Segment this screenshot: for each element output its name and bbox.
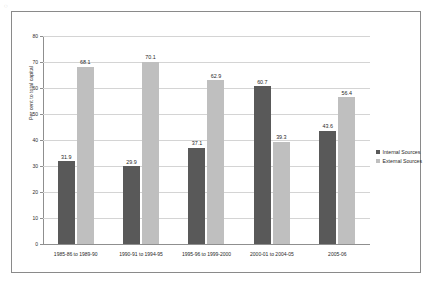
- bar-value-label: 31.9: [61, 154, 72, 160]
- y-axis-tick-label: 60: [32, 85, 38, 91]
- legend-swatch-icon-external: [376, 159, 380, 163]
- bar-value-label: 29.9: [126, 159, 137, 165]
- bar-external: 56.4: [338, 97, 355, 244]
- x-axis-category-label: 2000-01 to 2004-05: [250, 251, 294, 257]
- x-axis-category-label: 1990-91 to 1994-95: [119, 251, 163, 257]
- y-axis-tick-label: 40: [32, 137, 38, 143]
- bar-value-label: 56.4: [342, 90, 353, 96]
- y-axis-tick-label: 50: [32, 111, 38, 117]
- bar-external: 70.1: [142, 62, 159, 244]
- page-artifact-mark: ◌: [4, 1, 16, 11]
- y-axis-tick-label: 80: [32, 33, 38, 39]
- y-axis-tick-label: 70: [32, 59, 38, 65]
- x-axis-category-label: 1995-96 to 1999-2000: [182, 251, 231, 257]
- y-axis-tick-label: 0: [35, 241, 38, 247]
- bar-internal: 43.6: [319, 131, 336, 244]
- bar-group: 29.970.11990-91 to 1994-95: [108, 36, 173, 244]
- bar-group: 60.739.32000-01 to 2004-05: [239, 36, 304, 244]
- bar-value-label: 37.1: [192, 140, 203, 146]
- bar-value-label: 68.1: [80, 59, 91, 65]
- bar-group: 31.968.11985-86 to 1989-90: [43, 36, 108, 244]
- chart-figure-frame: Per cent to total capital 01020304050607…: [11, 11, 421, 273]
- bar-external: 39.3: [273, 142, 290, 244]
- y-axis-title: Per cent to total capital: [28, 38, 34, 148]
- bar-internal: 60.7: [254, 86, 271, 244]
- legend-item-internal-sources: Internal Sources: [376, 149, 422, 155]
- gridline: [43, 244, 370, 245]
- bar-group: 37.162.91995-96 to 1999-2000: [174, 36, 239, 244]
- bar-value-label: 62.9: [211, 73, 222, 79]
- x-axis-category-label: 1985-86 to 1989-90: [54, 251, 98, 257]
- y-axis-tick-label: 10: [32, 215, 38, 221]
- chart-legend: Internal Sources External Sources: [376, 149, 422, 167]
- y-axis-tick-label: 20: [32, 189, 38, 195]
- chart-axes: 0102030405060708031.968.11985-86 to 1989…: [43, 36, 370, 244]
- bar-value-label: 70.1: [145, 54, 156, 60]
- bar-external: 68.1: [77, 67, 94, 244]
- legend-item-external-sources: External Sources: [376, 158, 422, 164]
- bar-external: 62.9: [207, 80, 224, 244]
- legend-swatch-icon-internal: [376, 150, 380, 154]
- legend-label-external: External Sources: [383, 158, 423, 164]
- bar-value-label: 43.6: [323, 123, 334, 129]
- bar-internal: 29.9: [123, 166, 140, 244]
- bar-value-label: 39.3: [276, 134, 287, 140]
- bar-value-label: 60.7: [257, 79, 268, 85]
- bar-internal: 31.9: [58, 161, 75, 244]
- y-axis-tick-mark: [40, 244, 43, 245]
- bar-group: 43.656.42005-06: [305, 36, 370, 244]
- y-axis-tick-label: 30: [32, 163, 38, 169]
- plot-area: Per cent to total capital 01020304050607…: [12, 12, 420, 272]
- bar-internal: 37.1: [188, 148, 205, 244]
- x-axis-category-label: 2005-06: [328, 251, 346, 257]
- legend-label-internal: Internal Sources: [383, 149, 421, 155]
